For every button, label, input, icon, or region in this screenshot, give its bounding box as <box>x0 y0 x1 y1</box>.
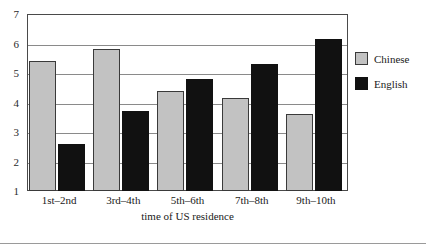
bar-english-2 <box>122 111 149 191</box>
y-tick-label: 5 <box>14 68 20 79</box>
bar-chart-figure: 1234567 1st–2nd3rd–4th5th–6th7th–8th9th–… <box>0 0 426 252</box>
bar-english-3 <box>186 79 213 191</box>
x-tick-label: 9th–10th <box>296 194 335 207</box>
y-tick-label: 6 <box>14 38 20 49</box>
bar-english-5 <box>315 39 342 191</box>
x-tick-label: 1st–2nd <box>42 194 77 207</box>
bar-english-4 <box>251 64 278 191</box>
bar-chinese-5 <box>286 114 313 191</box>
legend-swatch-english <box>355 77 368 90</box>
y-tick-label: 4 <box>14 97 20 108</box>
bar-chinese-3 <box>157 91 184 191</box>
x-axis-title: time of US residence <box>27 210 348 223</box>
x-axis: 1st–2nd3rd–4th5th–6th7th–8th9th–10th <box>27 194 348 210</box>
y-tick-label: 3 <box>14 127 20 138</box>
bottom-divider <box>0 243 426 244</box>
bars-layer <box>27 14 348 191</box>
bar-english-1 <box>58 144 85 191</box>
legend-item-english: English <box>355 77 426 90</box>
bar-group <box>284 14 348 191</box>
y-tick-label: 1 <box>14 186 20 197</box>
y-tick-label: 7 <box>14 9 20 20</box>
bar-chinese-1 <box>29 61 56 191</box>
bar-group <box>155 14 219 191</box>
bar-chinese-2 <box>93 49 120 191</box>
legend-swatch-chinese <box>355 52 368 65</box>
x-tick-label: 7th–8th <box>235 194 269 207</box>
chart-legend: ChineseEnglish <box>355 52 426 102</box>
y-tick-label: 2 <box>14 156 20 167</box>
y-axis: 1234567 <box>0 14 25 191</box>
bar-group <box>91 14 155 191</box>
legend-label: English <box>374 78 408 90</box>
bar-chinese-4 <box>222 98 249 191</box>
x-tick-label: 3rd–4th <box>106 194 140 207</box>
x-tick-label: 5th–6th <box>171 194 205 207</box>
bar-group <box>220 14 284 191</box>
legend-item-chinese: Chinese <box>355 52 426 65</box>
bar-group <box>27 14 91 191</box>
legend-label: Chinese <box>374 53 409 65</box>
